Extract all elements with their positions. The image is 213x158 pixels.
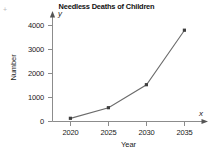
x-tick-label-2030: 2030 <box>127 128 167 137</box>
y-tick-label-3000: 3000 <box>14 45 44 54</box>
data-point-2035 <box>183 29 186 32</box>
y-tick-label-0: 0 <box>14 117 44 126</box>
x-tick-label-2020: 2020 <box>51 128 91 137</box>
data-point-2025 <box>107 106 110 109</box>
y-tick-label-2000: 2000 <box>14 69 44 78</box>
y-tick-label-1000: 1000 <box>14 93 44 102</box>
data-line-series-1 <box>71 30 185 118</box>
y-axis-title: Number <box>9 38 18 98</box>
x-axis-variable-label: x <box>199 109 203 118</box>
x-tick-label-2035: 2035 <box>165 128 205 137</box>
x-axis-title: Year <box>52 140 205 149</box>
chart-figure: + Needless Deaths of Children 0 1000 200… <box>0 0 213 158</box>
y-axis-arrow-icon <box>50 11 55 18</box>
y-axis-variable-label: y <box>58 9 62 18</box>
data-point-2030 <box>145 83 148 86</box>
x-tick-label-2025: 2025 <box>89 128 129 137</box>
y-tick-label-4000: 4000 <box>14 21 44 30</box>
x-axis-arrow-icon <box>202 119 209 124</box>
data-point-2020 <box>69 117 72 120</box>
